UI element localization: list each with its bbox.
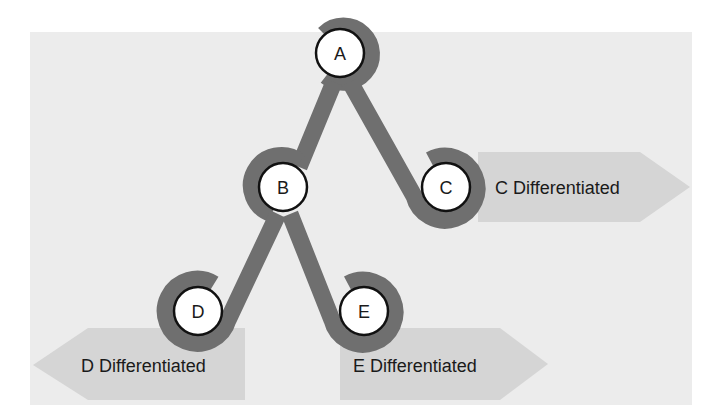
node-b-label: B (277, 178, 289, 198)
node-b: B (259, 163, 307, 211)
label-d-differentiated: D Differentiated (81, 356, 206, 376)
label-c-differentiated: C Differentiated (495, 178, 620, 198)
lineage-diagram: A B C D E C Differentiated D Differentia… (0, 0, 718, 420)
node-e: E (340, 287, 388, 335)
node-a-label: A (334, 44, 346, 64)
node-a: A (316, 29, 364, 77)
node-c: C (422, 163, 470, 211)
node-d: D (174, 287, 222, 335)
node-e-label: E (358, 302, 370, 322)
node-c-label: C (440, 178, 453, 198)
node-d-label: D (192, 302, 205, 322)
label-e-differentiated: E Differentiated (353, 356, 477, 376)
